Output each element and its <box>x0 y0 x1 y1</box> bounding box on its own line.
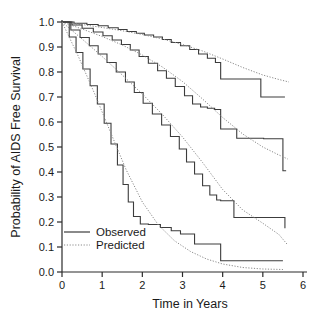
y-tick-label: 1.0 <box>39 16 54 28</box>
survival-chart-figure: 0123456 0.00.10.20.30.40.50.60.70.80.91.… <box>0 0 322 316</box>
x-tick-label: 5 <box>260 279 266 291</box>
x-tick-label: 6 <box>300 279 306 291</box>
y-tick-label: 0.2 <box>39 216 54 228</box>
y-tick-label: 0.0 <box>39 266 54 278</box>
y-tick-label: 0.5 <box>39 141 54 153</box>
y-tick-label: 0.9 <box>39 41 54 53</box>
y-tick-label: 0.8 <box>39 66 54 78</box>
legend-label-observed: Observed <box>96 226 146 238</box>
x-tick-label: 0 <box>59 279 65 291</box>
y-tick-label: 0.3 <box>39 191 54 203</box>
x-tick-label: 1 <box>99 279 105 291</box>
x-tick-label: 3 <box>179 279 185 291</box>
x-axis-title: Time in Years <box>152 297 227 311</box>
legend-label-predicted: Predicted <box>96 239 145 251</box>
y-axis-title: Probability of AIDS Free Survival <box>9 56 23 237</box>
x-tick-label: 2 <box>139 279 145 291</box>
y-tick-label: 0.6 <box>39 116 54 128</box>
x-tick-label: 4 <box>220 279 226 291</box>
y-tick-label: 0.7 <box>39 91 54 103</box>
y-tick-label: 0.4 <box>39 166 54 178</box>
y-tick-label: 0.1 <box>39 241 54 253</box>
chart-canvas: 0123456 0.00.10.20.30.40.50.60.70.80.91.… <box>0 0 322 316</box>
